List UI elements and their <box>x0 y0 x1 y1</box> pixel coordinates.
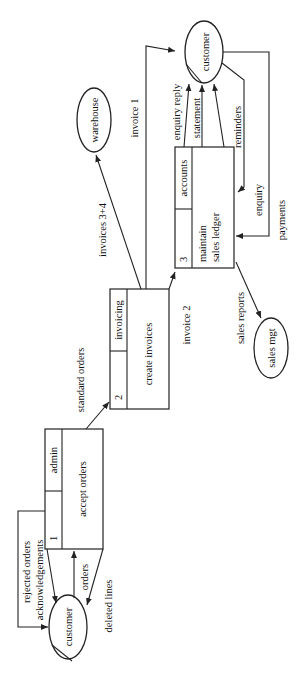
process-3-location: accounts <box>178 160 189 197</box>
flow-statement-label: statement <box>191 98 202 138</box>
flow-deleted-lines-label: deleted lines <box>103 580 114 633</box>
flow-enquiry-reply <box>184 84 189 147</box>
flow-reminders-label: reminders <box>232 106 243 148</box>
external-entity-warehouse: warehouse <box>77 88 111 152</box>
flow-invoice-2-label: invoice 2 <box>181 306 192 345</box>
process-2-name: create invoices <box>143 323 154 386</box>
flow-payments-label: payments <box>276 200 287 240</box>
flow-rejected-orders-label: rejected orders <box>21 541 32 603</box>
process-2-create-invoices: 2 invoicing create invoices <box>110 289 169 409</box>
flow-invoices-3-4-label: invoices 3+4 <box>97 202 108 257</box>
flow-enquiry-label: enquiry <box>253 183 264 216</box>
flow-invoice-1 <box>146 46 175 289</box>
process-3-maintain-sales-ledger: 3 accounts maintain sales ledger <box>175 147 234 268</box>
sales-mgt-label: sales mgt <box>266 328 277 367</box>
flow-enquiry-reply-label: enquiry reply <box>171 83 182 140</box>
external-entity-customer-left: customer <box>49 595 87 661</box>
data-flow-diagram: customer 1 admin accept orders rejected … <box>0 0 306 699</box>
flow-acknowledgements-label: acknowledgements <box>34 540 45 620</box>
process-1-location: admin <box>48 446 59 473</box>
process-2-number: 2 <box>113 395 124 400</box>
flow-orders-label: orders <box>79 564 90 590</box>
flow-invoice-1-label: invoice 1 <box>129 99 140 138</box>
flow-invoice-2 <box>169 272 175 289</box>
customer-right-label: customer <box>200 32 211 71</box>
process-2-location: invoicing <box>113 299 124 339</box>
flow-sales-reports-label: sales reports <box>235 292 246 344</box>
external-entity-customer-right: customer <box>185 21 223 83</box>
flow-standard-orders-label: standard orders <box>75 348 86 412</box>
warehouse-label: warehouse <box>89 97 100 142</box>
process-1-accept-orders: 1 admin accept orders <box>45 429 103 549</box>
process-3-name-line2: sales ledger <box>210 212 221 262</box>
process-3-name-line1: maintain <box>197 225 208 262</box>
process-3-number: 3 <box>178 257 189 262</box>
flow-standard-orders <box>86 402 109 429</box>
external-entity-sales-mgt: sales mgt <box>254 318 288 378</box>
flow-enquiry <box>214 84 224 147</box>
process-1-number: 1 <box>48 536 59 541</box>
customer-left-label: customer <box>63 607 74 646</box>
flow-acknowledgements <box>47 549 56 603</box>
process-1-name: accept orders <box>77 461 88 517</box>
